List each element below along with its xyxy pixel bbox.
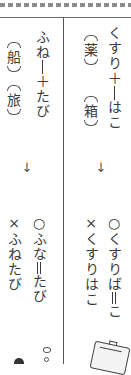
word-first: ふね [34,30,50,60]
plus-sign: ＋ [34,74,50,89]
correct-circle-icon: ○ [106,215,122,232]
dashed-top-border [0,3,131,7]
down-arrow-icon: ↓ [20,160,34,175]
kanji-gloss-second: 箱 [83,103,99,119]
wrong-cross-icon: × [6,215,22,232]
correct-reading: ○くすりばこ [106,215,122,319]
word-second: はこ [106,100,122,130]
compound-formula: ふね＋たび [34,30,50,119]
compound-formula: くすり＋はこ [106,26,122,130]
medicine-box-icon [89,341,130,375]
down-arrow-icon: ↓ [94,160,108,175]
wrong-reading: ×くすりはこ [83,215,99,307]
word-first: くすり [106,26,122,71]
correct-circle-icon: ○ [31,215,47,232]
voicing-mark [114,86,115,100]
voicing-highlight [112,292,116,304]
bubbles-icon [44,357,49,362]
table-top-rule [0,17,131,18]
word-second: たび [34,89,50,119]
wrong-cross-icon: × [83,215,99,232]
wrong-reading: ×ふねたび [6,215,22,292]
column-divider [63,17,64,364]
kanji-gloss-first: 船 [6,49,22,65]
ship-icon [14,358,24,364]
kanji-gloss-first: 薬 [83,42,99,58]
plus-sign: ＋ [106,71,122,86]
voicing-mark [42,60,43,74]
voicing-highlight [37,262,41,274]
bubbles-icon [43,347,51,353]
correct-reading: ○ふなたび [31,215,47,304]
kanji-gloss-second: 旅 [6,92,22,108]
